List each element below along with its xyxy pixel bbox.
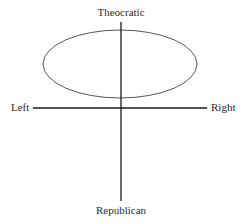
region-ellipse <box>43 30 197 98</box>
political-axes-diagram: Theocratic Republican Left Right <box>0 0 245 224</box>
label-top: Theocratic <box>97 6 144 18</box>
label-bottom: Republican <box>96 204 147 216</box>
label-left: Left <box>11 101 29 113</box>
label-right: Right <box>211 101 235 113</box>
